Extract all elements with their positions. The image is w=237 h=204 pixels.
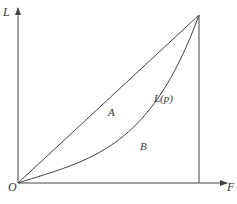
- y-axis-label: L: [2, 5, 10, 19]
- lorenz-diagram: L F O L(p) A B: [0, 0, 237, 204]
- region-b-label: B: [140, 140, 147, 152]
- curve-label: L(p): [153, 92, 173, 105]
- x-axis-label: F: [226, 180, 235, 194]
- origin-label: O: [8, 180, 17, 194]
- region-a-label: A: [107, 106, 115, 118]
